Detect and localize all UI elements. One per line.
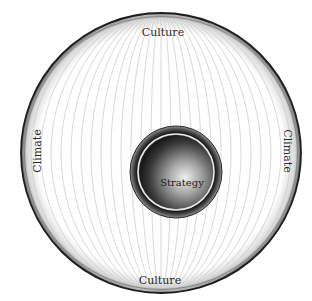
label-climate-left: Climate: [31, 129, 44, 172]
label-climate-right: Climate: [281, 129, 294, 172]
culture-climate-strategy-diagram: Culture Culture Climate Climate Strategy: [0, 0, 312, 301]
label-strategy: Strategy: [160, 177, 204, 188]
label-culture-bottom: Culture: [139, 274, 181, 287]
label-culture-top: Culture: [142, 26, 184, 39]
core-sphere-strategy: [130, 126, 222, 218]
